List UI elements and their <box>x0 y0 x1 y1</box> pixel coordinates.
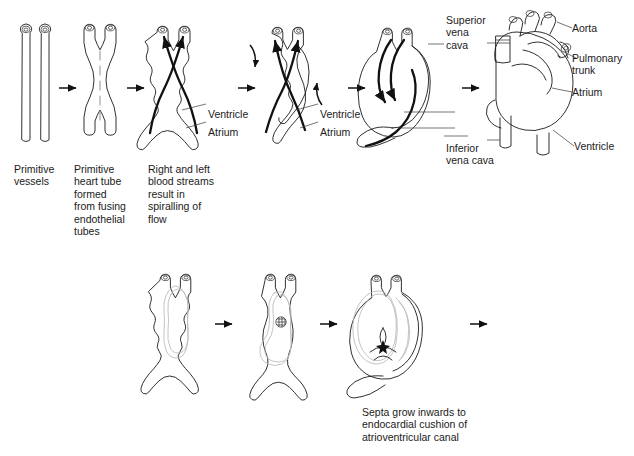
rotation-arrow-left <box>250 45 255 67</box>
label-ventricle-1: Ventricle <box>208 108 248 120</box>
figure-canvas: Primitive vessels Primitive heart tube f… <box>0 0 634 456</box>
label-superior-vena-cava: Superior vena cava <box>446 14 494 51</box>
label-atrium-2: Atrium <box>320 126 350 138</box>
section-stage-2 <box>250 274 308 400</box>
caption-spiralling-flow: Right and left blood streams result in s… <box>148 163 226 225</box>
stage-primitive-heart-tube <box>84 24 116 135</box>
section-stage-1 <box>141 274 199 394</box>
rotation-arrow-right <box>317 83 322 105</box>
label-inferior-vena-cava: Inferior vena cava <box>446 142 502 167</box>
stage-mature-heart <box>486 11 576 156</box>
section-stage-3 <box>347 275 423 398</box>
label-ventricle-2: Ventricle <box>320 108 360 120</box>
stage-spiralling-flow <box>137 26 206 150</box>
stage-looping-heart <box>250 27 322 143</box>
caption-septa-growth: Septa grow inwards to endocardial cushio… <box>362 406 522 443</box>
flow-stream-right <box>150 37 183 133</box>
label-atrium-mature: Atrium <box>572 86 602 98</box>
endocardial-cushion-spot <box>276 317 286 327</box>
label-ventricle-mature: Ventricle <box>574 140 614 152</box>
endocardial-cushion-mark <box>376 340 390 354</box>
stage-primitive-vessels <box>20 24 50 142</box>
caption-primitive-heart-tube: Primitive heart tube formed from fusing … <box>74 163 136 237</box>
label-atrium-1: Atrium <box>208 126 238 138</box>
caption-primitive-vessels: Primitive vessels <box>14 163 72 188</box>
flow-loop-b <box>391 40 404 100</box>
flow-loop-a <box>379 40 391 102</box>
flow-stream-left <box>164 37 197 133</box>
label-pulmonary-trunk: Pulmonary trunk <box>572 52 630 77</box>
label-aorta: Aorta <box>572 22 597 34</box>
